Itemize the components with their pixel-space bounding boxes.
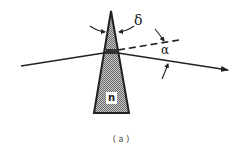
figure-caption: (a) xyxy=(0,135,238,144)
alpha-label: α xyxy=(161,44,169,56)
delta-label: δ xyxy=(134,13,142,27)
ray-entry-point xyxy=(106,49,118,54)
refracted-ray xyxy=(118,53,228,70)
undeviated-ray-extension xyxy=(118,40,179,50)
prism-deviation-diagram xyxy=(0,0,238,152)
refractive-index-label: n xyxy=(106,92,117,104)
incident-ray xyxy=(21,52,110,66)
